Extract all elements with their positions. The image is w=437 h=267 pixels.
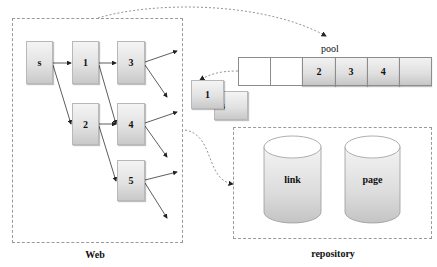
pool-cell <box>270 57 303 86</box>
web-node-s: s <box>26 41 53 84</box>
web-node-4: 4 <box>117 103 145 145</box>
node-label: 1 <box>83 57 88 68</box>
popped-node-1: 1 <box>191 80 224 109</box>
node-label: 3 <box>129 57 134 68</box>
node-label: s <box>38 57 42 68</box>
repository-label: repository <box>293 248 373 259</box>
pool-cell: 3 <box>335 57 368 86</box>
pool-label: pool <box>305 43 355 54</box>
pool-to-popped-curve <box>200 71 238 80</box>
pool-cell <box>238 57 271 86</box>
web-label: Web <box>70 249 120 260</box>
page-store-label: page <box>344 174 401 185</box>
page-store-cylinder: page <box>344 135 401 224</box>
web-to-repository-curve <box>185 130 233 184</box>
pool-cell <box>399 57 432 86</box>
node-label: 1 <box>205 89 210 100</box>
link-store-cylinder: link <box>263 135 322 224</box>
node-label: 2 <box>83 119 88 130</box>
node-label: 5 <box>129 175 134 186</box>
pool-cell: 2 <box>302 57 335 86</box>
pool-cell: 4 <box>367 57 400 86</box>
node-label: 4 <box>129 119 134 130</box>
web-node-2: 2 <box>72 103 99 145</box>
web-node-5: 5 <box>117 160 145 201</box>
web-node-1: 1 <box>72 41 99 84</box>
pool-queue: 2 3 4 <box>238 57 432 86</box>
web-node-3: 3 <box>117 41 145 84</box>
link-store-label: link <box>263 174 322 185</box>
